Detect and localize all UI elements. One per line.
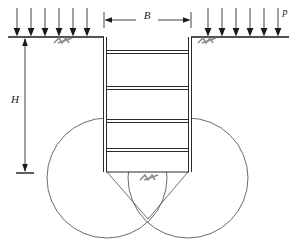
width-dimension: B xyxy=(104,8,191,28)
surcharge-arrow xyxy=(70,8,77,37)
depth-dimension: H xyxy=(8,38,34,173)
figure-container: B p H xyxy=(0,0,297,247)
ground-hatch-left xyxy=(54,38,72,43)
strut xyxy=(107,87,188,90)
strut xyxy=(107,149,188,152)
surcharge-arrow xyxy=(28,8,35,37)
retaining-wall-left xyxy=(103,37,107,172)
ground-hatch-right xyxy=(198,38,216,43)
surcharge-arrow-group-left xyxy=(14,8,91,37)
strut xyxy=(107,51,188,54)
surcharge-arrow xyxy=(219,8,226,37)
width-dim-arrowhead-right xyxy=(183,17,191,23)
surcharge-arrow xyxy=(14,8,21,37)
surcharge-arrow xyxy=(247,8,254,37)
depth-dimension-label: H xyxy=(10,93,20,105)
depth-dim-arrowhead-top xyxy=(22,38,28,46)
surcharge-arrow xyxy=(233,8,240,37)
surcharge-arrow xyxy=(56,8,63,37)
surcharge-load-label: p xyxy=(282,6,288,17)
width-dimension-label: B xyxy=(144,9,151,21)
retaining-wall-right xyxy=(188,37,192,172)
depth-dim-arrowhead-bottom xyxy=(22,164,28,172)
surcharge-arrow xyxy=(84,8,91,37)
surcharge-arrow xyxy=(42,8,49,37)
surcharge-arrow xyxy=(275,8,282,37)
strut xyxy=(107,120,188,123)
surcharge-arrow xyxy=(205,8,212,37)
excavation-diagram: B p H xyxy=(0,0,297,247)
surcharge-arrow-group-right xyxy=(205,8,282,37)
surcharge-arrow xyxy=(261,8,268,37)
excavation-base-hatch xyxy=(140,175,158,180)
width-dim-arrowhead-left xyxy=(105,17,113,23)
